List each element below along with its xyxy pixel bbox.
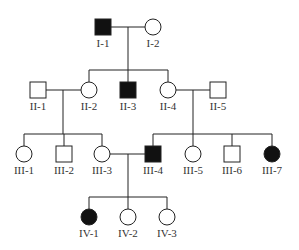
- individual-IV-1: IV-1: [79, 209, 99, 239]
- unaffected-female-circle-icon: [81, 82, 97, 98]
- individual-label: III-5: [183, 164, 204, 176]
- individual-III-7: III-7: [262, 146, 283, 176]
- affected-female-circle-icon: [264, 146, 280, 162]
- individual-label: IV-3: [157, 227, 177, 239]
- affected-male-square-icon: [120, 82, 136, 98]
- individual-IV-2: IV-2: [118, 209, 138, 239]
- affected-female-circle-icon: [81, 209, 97, 225]
- individual-label: I-1: [97, 37, 110, 49]
- individual-II-5: II-5: [210, 82, 227, 112]
- individual-label: II-3: [120, 100, 137, 112]
- individual-III-5: III-5: [183, 146, 204, 176]
- individual-label: II-2: [81, 100, 98, 112]
- individual-label: III-6: [222, 164, 243, 176]
- individual-III-1: III-1: [14, 146, 34, 176]
- individual-II-4: II-4: [160, 82, 177, 112]
- affected-male-square-icon: [145, 146, 161, 162]
- individual-IV-3: IV-3: [157, 209, 177, 239]
- individual-label: III-4: [143, 164, 164, 176]
- unaffected-female-circle-icon: [16, 146, 32, 162]
- pedigree-individuals: I-1I-2II-1II-2II-3II-4II-5III-1III-2III-…: [14, 19, 283, 239]
- individual-II-3: II-3: [120, 82, 137, 112]
- individual-label: III-2: [54, 164, 74, 176]
- individual-label: III-1: [14, 164, 34, 176]
- individual-label: III-7: [262, 164, 283, 176]
- individual-I-2: I-2: [145, 19, 161, 49]
- individual-II-1: II-1: [30, 82, 47, 112]
- individual-label: II-5: [210, 100, 227, 112]
- unaffected-male-square-icon: [224, 146, 240, 162]
- individual-III-6: III-6: [222, 146, 243, 176]
- individual-label: IV-2: [118, 227, 138, 239]
- unaffected-female-circle-icon: [94, 146, 110, 162]
- individual-II-2: II-2: [81, 82, 98, 112]
- unaffected-female-circle-icon: [120, 209, 136, 225]
- pedigree-lines: [24, 27, 272, 209]
- individual-III-4: III-4: [143, 146, 164, 176]
- individual-label: IV-1: [79, 227, 99, 239]
- unaffected-female-circle-icon: [160, 82, 176, 98]
- individual-label: III-3: [92, 164, 113, 176]
- unaffected-female-circle-icon: [185, 146, 201, 162]
- unaffected-male-square-icon: [30, 82, 46, 98]
- pedigree-chart: I-1I-2II-1II-2II-3II-4II-5III-1III-2III-…: [0, 0, 299, 250]
- individual-label: II-4: [160, 100, 177, 112]
- unaffected-female-circle-icon: [145, 19, 161, 35]
- unaffected-male-square-icon: [56, 146, 72, 162]
- individual-label: I-2: [147, 37, 160, 49]
- unaffected-female-circle-icon: [159, 209, 175, 225]
- individual-label: II-1: [30, 100, 47, 112]
- individual-III-2: III-2: [54, 146, 74, 176]
- unaffected-male-square-icon: [210, 82, 226, 98]
- individual-III-3: III-3: [92, 146, 113, 176]
- affected-male-square-icon: [95, 19, 111, 35]
- individual-I-1: I-1: [95, 19, 111, 49]
